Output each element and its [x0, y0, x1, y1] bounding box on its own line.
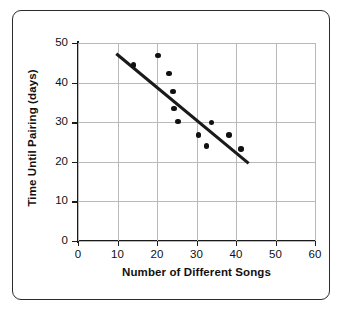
y-tick-label: 20: [40, 155, 68, 168]
data-point: [131, 62, 137, 68]
x-tick-label: 60: [298, 248, 332, 261]
x-tick: [78, 241, 79, 246]
x-tick-label: 0: [61, 248, 95, 261]
data-point: [166, 71, 172, 77]
x-tick: [118, 241, 119, 246]
y-tick-label: 30: [40, 115, 68, 128]
y-tick: [72, 241, 78, 242]
plot-area: [78, 43, 315, 241]
y-tick-label: 10: [40, 194, 68, 207]
trend-line: [78, 43, 315, 241]
x-tick: [315, 241, 316, 246]
data-point: [175, 119, 181, 125]
data-point: [238, 146, 244, 152]
x-tick-label: 50: [259, 248, 293, 261]
x-tick-label: 30: [180, 248, 214, 261]
data-point: [196, 132, 202, 138]
y-tick-label: 40: [40, 76, 68, 89]
x-tick: [197, 241, 198, 246]
x-axis-title: Number of Different Songs: [78, 266, 315, 278]
y-axis-title: Time Until Pairing (days): [26, 38, 38, 238]
x-tick: [236, 241, 237, 246]
gridline-vertical: [315, 43, 316, 241]
data-point: [170, 89, 176, 95]
data-point: [204, 143, 210, 149]
x-tick-label: 20: [140, 248, 174, 261]
data-point: [171, 106, 177, 112]
scatter-plot-figure: 010203040506001020304050 Number of Diffe…: [0, 0, 347, 315]
y-tick-label: 0: [40, 234, 68, 247]
x-tick-label: 10: [101, 248, 135, 261]
data-point: [226, 132, 232, 138]
y-tick-label: 50: [40, 36, 68, 49]
x-tick-label: 40: [219, 248, 253, 261]
x-tick: [157, 241, 158, 246]
x-tick: [276, 241, 277, 246]
